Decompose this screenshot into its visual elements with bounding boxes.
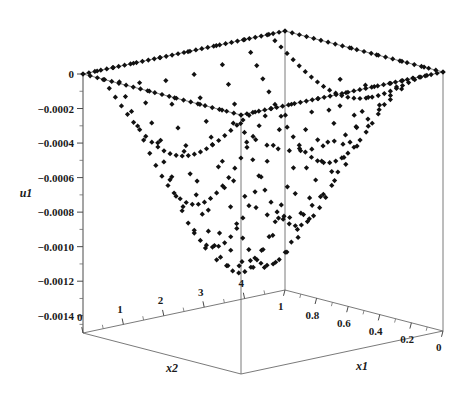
data-point xyxy=(293,191,298,196)
data-point xyxy=(332,139,337,144)
data-point xyxy=(192,72,197,77)
data-point xyxy=(315,79,320,84)
data-point xyxy=(287,215,292,220)
data-point xyxy=(258,261,263,266)
data-point xyxy=(331,121,336,126)
data-point xyxy=(377,107,382,112)
data-point xyxy=(299,222,304,227)
data-point xyxy=(357,96,362,101)
data-point xyxy=(262,107,267,112)
data-point xyxy=(244,145,249,150)
data-point xyxy=(146,57,151,62)
data-point xyxy=(307,195,312,200)
data-point xyxy=(180,153,185,158)
data-point xyxy=(242,194,247,199)
x1-tick-label: 0.6 xyxy=(337,317,351,329)
data-point xyxy=(383,54,388,59)
data-point xyxy=(315,137,320,142)
data-point xyxy=(180,208,185,213)
data-point xyxy=(210,105,215,110)
data-point xyxy=(276,146,281,151)
data-point xyxy=(279,202,284,207)
data-point xyxy=(181,97,186,102)
data-point xyxy=(216,164,221,169)
data-point xyxy=(194,192,199,197)
data-point xyxy=(313,177,318,182)
data-point xyxy=(354,47,359,52)
data-point xyxy=(327,88,332,93)
data-point xyxy=(234,226,239,231)
data-point xyxy=(214,257,219,262)
data-point xyxy=(325,139,330,144)
data-point xyxy=(426,66,431,71)
data-point xyxy=(198,238,203,243)
data-point xyxy=(242,269,247,274)
data-point xyxy=(188,99,193,104)
data-point xyxy=(206,207,211,212)
data-point xyxy=(278,44,283,49)
data-point xyxy=(222,240,227,245)
scatter-plot-3d: 0−0.0002−0.0004−0.0006−0.0008−0.0010−0.0… xyxy=(0,0,472,412)
data-point xyxy=(198,95,203,100)
data-point xyxy=(217,230,222,235)
data-point xyxy=(260,76,265,81)
data-point xyxy=(322,95,327,100)
data-point xyxy=(147,151,152,156)
data-point xyxy=(192,228,197,233)
data-point xyxy=(123,83,128,88)
data-point xyxy=(370,95,375,100)
data-point xyxy=(357,138,362,143)
data-point xyxy=(369,51,374,56)
u1-tick-label: −0.0002 xyxy=(37,103,74,115)
u1-tick-label: −0.0006 xyxy=(37,172,74,184)
x1-tick-label: 0.2 xyxy=(400,333,414,345)
data-point xyxy=(230,268,235,273)
data-point xyxy=(328,93,333,98)
data-point xyxy=(181,149,186,154)
data-point xyxy=(280,104,285,109)
data-point xyxy=(184,200,189,205)
data-point xyxy=(138,86,143,91)
data-point xyxy=(285,184,290,189)
data-point xyxy=(216,244,221,249)
data-point xyxy=(175,51,180,56)
data-point xyxy=(202,200,207,205)
data-point xyxy=(388,89,393,94)
data-point xyxy=(326,108,331,113)
data-point xyxy=(204,119,209,124)
data-point xyxy=(290,30,295,35)
x1-axis-title: x1 xyxy=(355,359,368,373)
data-point xyxy=(123,94,128,99)
data-point xyxy=(167,151,172,156)
data-point xyxy=(165,183,170,188)
data-point xyxy=(352,113,357,118)
data-point xyxy=(376,111,381,116)
data-point xyxy=(271,143,276,148)
data-point xyxy=(149,140,154,145)
data-point xyxy=(238,155,243,160)
data-point xyxy=(317,205,322,210)
data-point xyxy=(238,112,243,117)
data-point xyxy=(170,52,175,57)
data-point xyxy=(234,221,239,226)
data-point xyxy=(274,209,279,214)
data-point xyxy=(200,212,205,217)
data-point xyxy=(277,127,282,132)
data-point xyxy=(333,158,338,163)
data-point xyxy=(256,109,261,114)
data-point xyxy=(218,255,223,260)
data-point xyxy=(247,36,252,41)
data-point xyxy=(229,40,234,45)
data-point xyxy=(297,63,302,68)
u1-tick-label: −0.0010 xyxy=(37,241,74,253)
data-point xyxy=(222,133,227,138)
data-point xyxy=(303,69,308,74)
data-point xyxy=(242,130,247,135)
data-points xyxy=(80,28,445,275)
data-point xyxy=(412,62,417,67)
data-point xyxy=(295,235,300,240)
data-point xyxy=(220,159,225,164)
data-point xyxy=(178,196,183,201)
data-point xyxy=(381,82,386,87)
data-point xyxy=(360,109,365,114)
